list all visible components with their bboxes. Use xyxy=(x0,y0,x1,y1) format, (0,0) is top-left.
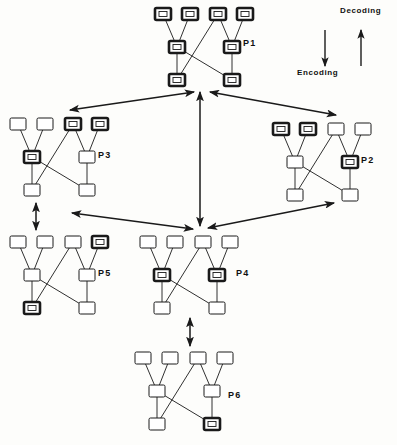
node-P5-m1[interactable] xyxy=(79,269,95,281)
node-box xyxy=(182,8,198,20)
node-P1-m1[interactable] xyxy=(224,41,240,53)
p2-p4-connector xyxy=(208,203,334,228)
node-P4-m1[interactable] xyxy=(209,269,225,281)
node-P2-t0[interactable] xyxy=(273,123,289,135)
node-box xyxy=(24,269,40,281)
node-P6-t1[interactable] xyxy=(162,352,178,364)
node-box xyxy=(355,123,371,135)
node-P3-t2[interactable] xyxy=(65,118,81,130)
cluster-label-P1: P1 xyxy=(243,38,256,48)
cluster-P4 xyxy=(140,236,238,314)
node-P5-m0[interactable] xyxy=(24,269,40,281)
node-P5-b1[interactable] xyxy=(79,302,95,314)
node-P1-t1[interactable] xyxy=(182,8,198,20)
node-P2-t1[interactable] xyxy=(300,123,316,135)
node-box xyxy=(79,302,95,314)
node-P2-t2[interactable] xyxy=(328,123,344,135)
node-P6-t2[interactable] xyxy=(190,352,206,364)
node-box xyxy=(167,236,183,248)
node-P3-b0[interactable] xyxy=(24,184,40,196)
node-P2-m0[interactable] xyxy=(287,156,303,168)
node-P3-m1[interactable] xyxy=(79,151,95,163)
decoding-label: Decoding xyxy=(340,6,381,15)
node-P4-t1[interactable] xyxy=(167,236,183,248)
node-P1-t2[interactable] xyxy=(210,8,226,20)
node-box xyxy=(135,352,151,364)
node-P5-t2[interactable] xyxy=(65,236,81,248)
node-box xyxy=(162,352,178,364)
node-box xyxy=(154,302,170,314)
node-P3-t3[interactable] xyxy=(92,118,108,130)
node-P2-b0[interactable] xyxy=(287,189,303,201)
node-box xyxy=(195,236,211,248)
node-P5-t0[interactable] xyxy=(10,236,26,248)
node-box xyxy=(224,41,240,53)
node-P1-m0[interactable] xyxy=(169,41,185,53)
node-box xyxy=(79,269,95,281)
legend-layer xyxy=(325,30,361,66)
node-box xyxy=(37,236,53,248)
node-P6-b1[interactable] xyxy=(204,418,220,430)
node-P3-t0[interactable] xyxy=(10,118,26,130)
node-box xyxy=(79,151,95,163)
p1-p2-connector xyxy=(210,92,336,115)
node-P2-m1[interactable] xyxy=(342,156,358,168)
node-P5-t1[interactable] xyxy=(37,236,53,248)
cluster-P5 xyxy=(10,236,108,314)
node-box xyxy=(328,123,344,135)
node-P6-t0[interactable] xyxy=(135,352,151,364)
node-box xyxy=(210,8,226,20)
node-P1-b1[interactable] xyxy=(224,74,240,86)
node-P4-t2[interactable] xyxy=(195,236,211,248)
node-P2-b1[interactable] xyxy=(342,189,358,201)
node-box xyxy=(37,118,53,130)
node-box xyxy=(155,8,171,20)
node-P4-b0[interactable] xyxy=(154,302,170,314)
node-P6-b0[interactable] xyxy=(149,418,165,430)
cluster-label-P5: P5 xyxy=(98,268,111,278)
node-box xyxy=(224,74,240,86)
node-P5-b0[interactable] xyxy=(24,302,40,314)
node-P1-t3[interactable] xyxy=(237,8,253,20)
node-box xyxy=(140,236,156,248)
node-box xyxy=(209,302,225,314)
node-box xyxy=(217,352,233,364)
encoding-label: Encoding xyxy=(297,68,338,77)
cluster-P2 xyxy=(273,123,371,201)
node-box xyxy=(24,184,40,196)
cluster-P6 xyxy=(135,352,233,430)
node-P1-t0[interactable] xyxy=(155,8,171,20)
node-P6-t3[interactable] xyxy=(217,352,233,364)
node-P2-t3[interactable] xyxy=(355,123,371,135)
node-box xyxy=(92,118,108,130)
node-box xyxy=(24,302,40,314)
cluster-P1 xyxy=(155,8,253,86)
cluster-label-P3: P3 xyxy=(98,150,111,160)
node-box xyxy=(204,418,220,430)
node-box xyxy=(169,41,185,53)
node-P6-m0[interactable] xyxy=(149,385,165,397)
node-box xyxy=(222,236,238,248)
node-box xyxy=(237,8,253,20)
cluster-label-P2: P2 xyxy=(361,155,374,165)
node-box xyxy=(169,74,185,86)
node-box xyxy=(79,184,95,196)
node-P4-m0[interactable] xyxy=(154,269,170,281)
node-box xyxy=(65,236,81,248)
node-P3-m0[interactable] xyxy=(24,151,40,163)
node-P4-b1[interactable] xyxy=(209,302,225,314)
cluster-label-P4: P4 xyxy=(236,268,249,278)
node-box xyxy=(149,418,165,430)
node-P4-t3[interactable] xyxy=(222,236,238,248)
node-P4-t0[interactable] xyxy=(140,236,156,248)
p1-p3-connector xyxy=(70,92,194,110)
p3-p4-connector xyxy=(72,213,193,229)
node-P3-t1[interactable] xyxy=(37,118,53,130)
node-P1-b0[interactable] xyxy=(169,74,185,86)
node-P6-m1[interactable] xyxy=(204,385,220,397)
node-box xyxy=(342,189,358,201)
node-box xyxy=(287,189,303,201)
node-P3-b1[interactable] xyxy=(79,184,95,196)
node-P5-t3[interactable] xyxy=(92,236,108,248)
node-box xyxy=(209,269,225,281)
